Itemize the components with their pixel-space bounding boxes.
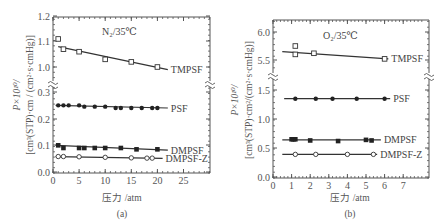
open-circle-marker-icon [77,155,81,159]
y-tick-label: 5.5 [258,55,271,66]
fit-line [282,52,388,59]
open-square-marker-icon [293,52,298,57]
axis-break-icon [205,82,215,85]
y-tick-label: 1.1 [38,36,51,47]
y-tick-label: 0.0 [38,167,51,178]
open-square-marker-icon [382,57,387,62]
open-square-marker-icon [129,60,134,65]
y-axis-title-line1: P×10¹⁰/ [230,83,240,116]
open-circle-marker-icon [61,154,65,158]
filled-square-marker-icon [92,146,97,151]
series-label: TMPSF [391,53,423,64]
filled-circle-marker-icon [150,106,154,110]
x-axis-title: 压力 /atm [102,192,142,203]
filled-square-marker-icon [134,147,139,152]
open-square-marker-icon [312,51,317,56]
series-psf: PSF [284,93,410,104]
y-axis-title-line2: [cm³(STP)·cm / (cm²·s·cmHg)] [25,35,36,155]
fit-line [58,47,168,70]
x-tick-label: 3 [326,180,331,191]
filled-square-marker-icon [77,146,82,151]
filled-square-marker-icon [82,146,87,151]
panel-label: (a) [117,209,128,220]
filled-square-marker-icon [369,138,374,143]
axis-break-icon [268,74,278,77]
filled-circle-marker-icon [293,97,297,101]
series-label: DMPSF-Z [166,153,208,164]
y-tick-label: 0.2 [38,114,51,125]
y-axis-title-line2: [cm³(STP)·cm²/(cm²·s·cmHg)] [244,41,255,159]
filled-circle-marker-icon [103,104,107,108]
open-square-marker-icon [103,57,108,62]
filled-circle-marker-icon [155,106,159,110]
filled-circle-marker-icon [77,103,81,107]
series-label: PSF [393,93,410,104]
filled-square-marker-icon [336,139,341,144]
filled-square-marker-icon [155,147,160,152]
y-axis-title-line1: P×10¹⁰/ [12,78,22,111]
filled-square-marker-icon [56,143,61,148]
open-circle-marker-icon [293,152,297,156]
filled-circle-marker-icon [330,97,334,101]
filled-circle-marker-icon [314,97,318,101]
open-square-marker-icon [77,49,82,54]
filled-circle-marker-icon [61,103,65,107]
filled-circle-marker-icon [82,104,86,108]
series-dmpsf-z: DMPSF-Z [282,149,422,160]
y-tick-label: 1.2 [38,11,51,22]
open-square-marker-icon [155,65,160,70]
open-circle-marker-icon [314,152,318,156]
open-circle-marker-icon [371,152,375,156]
x-tick-label: 25 [179,175,189,186]
y-tick-label: 6.0 [258,27,271,38]
filled-circle-marker-icon [355,97,359,101]
panel-a: 05101520250.00.10.20.31.01.11.2N₂/35℃压力 … [12,11,215,221]
filled-circle-marker-icon [113,106,117,110]
y-tick-label: 0.3 [38,87,51,98]
open-circle-marker-icon [103,155,107,159]
x-tick-label: 4 [345,180,350,191]
open-circle-marker-icon [56,154,60,158]
filled-square-marker-icon [364,138,369,143]
series-tmpsf: TMPSF [56,37,203,75]
series-dmpsf: DMPSF [282,134,417,145]
x-tick-label: 6 [382,180,387,191]
x-axis-title: 压力 /atm [330,192,370,203]
y-tick-label: 0.0 [258,172,271,183]
filled-circle-marker-icon [93,104,97,108]
filled-square-marker-icon [308,138,313,143]
filled-square-marker-icon [103,146,108,151]
filled-circle-marker-icon [140,106,144,110]
y-tick-label: 0.1 [38,140,51,151]
x-tick-label: 0 [51,175,56,186]
x-tick-label: 10 [100,175,110,186]
chart-canvas: 05101520250.00.10.20.31.01.11.2N₂/35℃压力 … [0,0,443,224]
series-dmpsf-z: DMPSF-Z [56,153,208,164]
series-label: DMPSF [384,134,417,145]
x-tick-label: 7 [401,180,406,191]
fit-line [56,145,168,150]
x-tick-label: 5 [364,180,369,191]
x-tick-label: 1 [289,180,294,191]
series-psf: PSF [56,103,188,114]
y-tick-label: 1.5 [258,85,271,96]
axis-break-icon [424,74,434,77]
y-tick-label: 1.0 [258,114,271,125]
x-tick-label: 15 [126,175,136,186]
open-circle-marker-icon [129,156,133,160]
open-square-marker-icon [56,37,61,42]
panel-b: 012345670.00.51.01.55.56.0O₂/35℃压力 /atm(… [230,20,434,220]
open-circle-marker-icon [145,156,149,160]
filled-circle-marker-icon [129,106,133,110]
panel-label: (b) [344,209,355,220]
open-square-marker-icon [61,47,66,52]
filled-square-marker-icon [119,146,124,151]
open-circle-marker-icon [150,156,154,160]
open-square-marker-icon [293,44,298,49]
open-circle-marker-icon [345,152,349,156]
filled-square-marker-icon [293,137,298,142]
filled-circle-marker-icon [382,97,386,101]
filled-circle-marker-icon [119,106,123,110]
y-tick-label: 0.5 [258,143,271,154]
plot-title: N₂/35℃ [102,26,137,37]
